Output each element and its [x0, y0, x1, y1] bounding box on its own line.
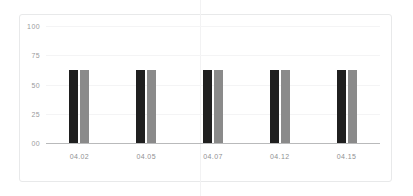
bar-series-1[interactable]: [136, 70, 145, 143]
bar-group[interactable]: [203, 26, 223, 143]
bar-group[interactable]: [337, 26, 357, 143]
y-axis-tick-label: 50: [0, 81, 40, 88]
bars-layer: [46, 26, 380, 143]
bar-chart-widget: 10075502500 04.0204.0504.0704.1204.15: [0, 0, 413, 196]
bar-series-1[interactable]: [203, 70, 212, 143]
plot-area: 10075502500: [46, 26, 380, 143]
y-axis-tick-label: 25: [0, 110, 40, 117]
x-axis-tick-label: 04.07: [186, 153, 240, 160]
bar-series-2[interactable]: [147, 70, 156, 143]
x-axis-tick-label: 04.02: [52, 153, 106, 160]
bar-group[interactable]: [136, 26, 156, 143]
bar-series-1[interactable]: [337, 70, 346, 143]
bar-group[interactable]: [69, 26, 89, 143]
y-axis-tick-label: 100: [0, 23, 40, 30]
bar-series-2[interactable]: [281, 70, 290, 143]
y-axis-tick-label: 75: [0, 52, 40, 59]
x-axis-tick-label: 04.15: [320, 153, 374, 160]
bar-series-2[interactable]: [80, 70, 89, 143]
x-axis-tick-label: 04.12: [253, 153, 307, 160]
bar-series-1[interactable]: [270, 70, 279, 143]
axis-baseline: [46, 143, 380, 144]
x-axis-tick-label: 04.05: [119, 153, 173, 160]
bar-series-2[interactable]: [214, 70, 223, 143]
bar-series-1[interactable]: [69, 70, 78, 143]
bar-group[interactable]: [270, 26, 290, 143]
bar-series-2[interactable]: [348, 70, 357, 143]
y-axis-tick-label: 00: [0, 140, 40, 147]
